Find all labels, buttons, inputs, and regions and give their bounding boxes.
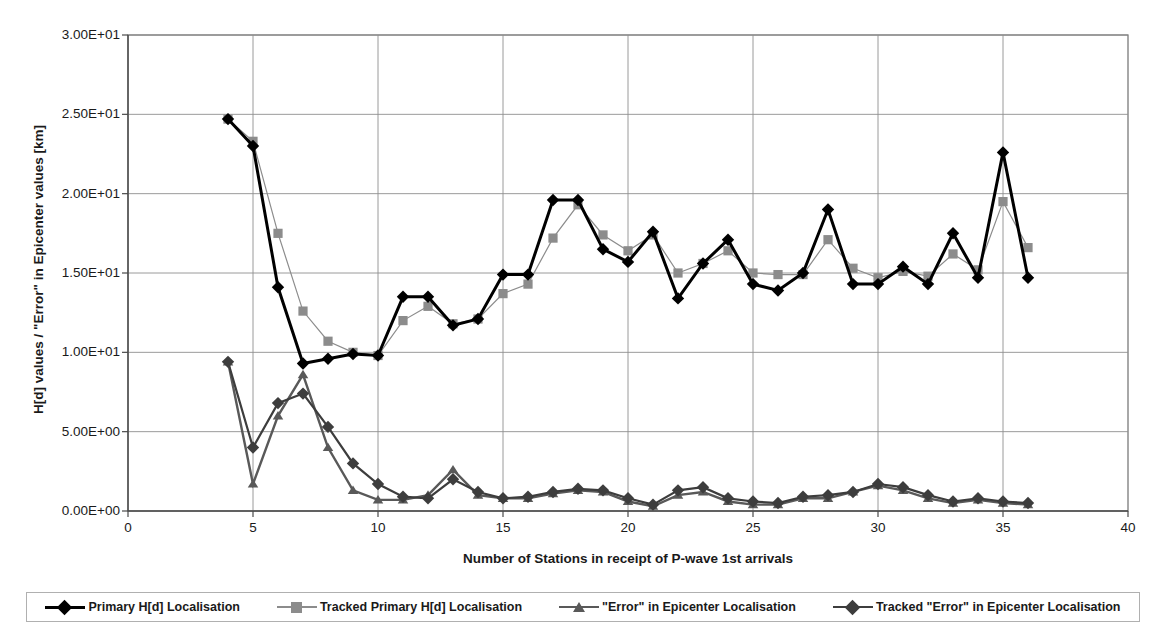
data-point-marker: [1023, 243, 1032, 252]
data-point-marker: [298, 306, 307, 315]
chart-legend: Primary H[d] LocalisationTracked Primary…: [26, 592, 1140, 622]
plot-canvas: [0, 0, 1165, 639]
legend-item[interactable]: Primary H[d] Localisation: [45, 600, 239, 614]
legend-label: Tracked Primary H[d] Localisation: [320, 600, 522, 614]
data-point-marker: [823, 235, 832, 244]
x-axis-tick-label: 20: [598, 520, 658, 535]
x-axis-tick-label: 30: [848, 520, 908, 535]
data-point-marker: [673, 268, 682, 277]
data-point-marker: [598, 230, 607, 239]
x-axis-tick-label: 0: [98, 520, 158, 535]
x-axis-tick-label: 40: [1098, 520, 1158, 535]
legend-label: "Error" in Epicenter Localisation: [602, 600, 796, 614]
legend-marker-diamond-icon: [45, 600, 85, 614]
data-point-marker: [998, 197, 1007, 206]
legend-item[interactable]: Tracked Primary H[d] Localisation: [277, 600, 522, 614]
x-axis-tick-label: 15: [473, 520, 533, 535]
data-point-marker: [548, 233, 557, 242]
legend-marker-triangle-icon: [559, 600, 599, 614]
legend-marker-diamond-icon: [833, 600, 873, 614]
x-axis-tick-label: 5: [223, 520, 283, 535]
x-axis-tick-label: 25: [723, 520, 783, 535]
data-point-marker: [623, 246, 632, 255]
data-point-marker: [498, 289, 507, 298]
x-axis-label: Number of Stations in receipt of P-wave …: [128, 551, 1128, 566]
data-point-marker: [423, 302, 432, 311]
legend-item[interactable]: Tracked "Error" in Epicenter Localisatio…: [833, 600, 1121, 614]
x-axis-tick-label: 35: [973, 520, 1033, 535]
data-point-marker: [523, 280, 532, 289]
legend-item[interactable]: "Error" in Epicenter Localisation: [559, 600, 796, 614]
legend-label: Primary H[d] Localisation: [88, 600, 239, 614]
legend-marker-square-icon: [277, 600, 317, 614]
data-point-marker: [773, 270, 782, 279]
data-point-marker: [273, 229, 282, 238]
chart-figure: H[d] values / "Error" in Epicenter value…: [0, 0, 1165, 639]
legend-label: Tracked "Error" in Epicenter Localisatio…: [876, 600, 1121, 614]
data-point-marker: [948, 249, 957, 258]
data-point-marker: [398, 316, 407, 325]
x-axis-tick-label: 10: [348, 520, 408, 535]
data-point-marker: [323, 337, 332, 346]
